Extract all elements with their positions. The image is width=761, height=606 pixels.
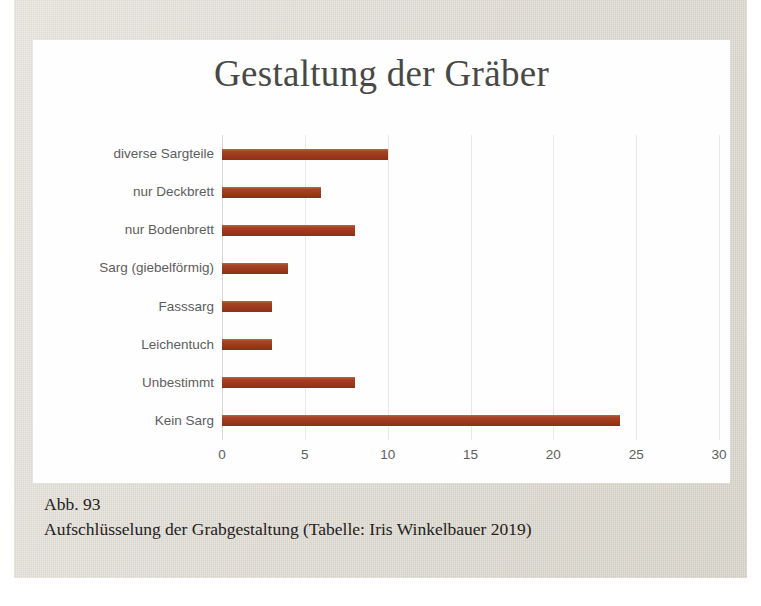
book-page: Gestaltung der Gräber diverse Sargteilen… <box>14 0 747 578</box>
gridline-5 <box>305 135 306 440</box>
figure-number: Abb. 93 <box>44 492 724 517</box>
x-tick-label: 15 <box>451 447 491 462</box>
category-label: Fasssarg <box>158 300 214 314</box>
x-tick-label: 30 <box>699 447 739 462</box>
gridline-10 <box>388 135 389 440</box>
category-label: Unbestimmt <box>142 376 214 390</box>
category-label: Sarg (giebelförmig) <box>99 261 214 275</box>
gridline-30 <box>719 135 720 440</box>
gridline-15 <box>471 135 472 440</box>
category-label: Leichentuch <box>141 338 214 352</box>
bar <box>222 263 288 274</box>
bar <box>222 301 272 312</box>
x-tick-label: 10 <box>368 447 408 462</box>
bar <box>222 187 321 198</box>
value-axis-labels: 051015202530 <box>222 447 719 469</box>
gridline-20 <box>553 135 554 440</box>
category-label: diverse Sargteile <box>113 147 214 161</box>
plot-area <box>222 135 719 440</box>
x-tick-label: 20 <box>533 447 573 462</box>
bar <box>222 225 355 236</box>
bar <box>222 377 355 388</box>
chart-title: Gestaltung der Gräber <box>33 52 730 95</box>
figure-caption-text: Aufschlüsselung der Grabgestaltung (Tabe… <box>44 517 724 542</box>
category-label: nur Bodenbrett <box>125 223 214 237</box>
gridline-0 <box>222 135 223 440</box>
plot-wrapper: diverse Sargteilenur Deckbrettnur Bodenb… <box>33 135 730 483</box>
figure-caption: Abb. 93 Aufschlüsselung der Grabgestaltu… <box>44 492 724 543</box>
bar <box>222 339 272 350</box>
gridline-25 <box>636 135 637 440</box>
category-label: Kein Sarg <box>155 414 214 428</box>
bar <box>222 149 388 160</box>
category-axis-labels: diverse Sargteilenur Deckbrettnur Bodenb… <box>33 135 222 440</box>
chart-panel: Gestaltung der Gräber diverse Sargteilen… <box>33 40 730 483</box>
bar <box>222 415 620 426</box>
x-tick-label: 5 <box>285 447 325 462</box>
category-label: nur Deckbrett <box>133 185 214 199</box>
x-tick-label: 25 <box>616 447 656 462</box>
x-tick-label: 0 <box>202 447 242 462</box>
